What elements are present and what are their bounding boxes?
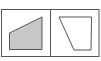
figure-canvas [0,0,101,61]
left-filled-quadrilateral [10,17,43,50]
right-outline-quadrilateral [59,17,92,50]
